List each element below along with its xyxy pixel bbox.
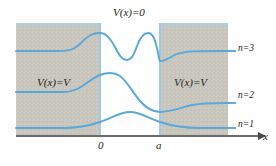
label-potential-right-barrier: V(x)=V bbox=[174, 76, 207, 88]
label-level-n2: n=2 bbox=[238, 90, 254, 100]
label-potential-left-barrier: V(x)=V bbox=[37, 76, 70, 88]
label-width-tick: a bbox=[156, 139, 162, 151]
figure-canvas: V(x)=0 V(x)=V V(x)=V n=3 n=2 n=1 0 a x bbox=[0, 0, 276, 166]
label-axis-x: x bbox=[263, 130, 268, 142]
label-level-n3: n=3 bbox=[238, 43, 254, 53]
label-origin-tick: 0 bbox=[98, 139, 104, 151]
label-level-n1: n=1 bbox=[238, 119, 254, 129]
label-potential-inside: V(x)=0 bbox=[113, 6, 145, 18]
